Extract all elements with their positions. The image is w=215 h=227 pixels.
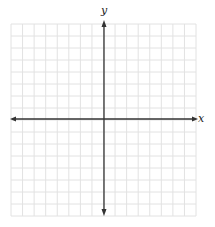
y-axis-label: y <box>101 5 107 16</box>
arrow-down-icon <box>102 209 107 216</box>
coordinate-plane <box>0 0 215 227</box>
x-axis-label: x <box>198 113 204 124</box>
axes <box>10 20 198 216</box>
